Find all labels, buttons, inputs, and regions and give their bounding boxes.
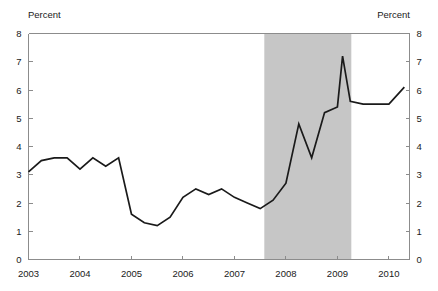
y-label-left-3: 3 bbox=[16, 169, 21, 180]
x-label-2010: 2010 bbox=[378, 268, 399, 279]
y-label-right-0: 0 bbox=[417, 254, 422, 265]
y-label-left-8: 8 bbox=[16, 28, 21, 39]
y-label-left-1: 1 bbox=[16, 226, 21, 237]
left-axis-unit-label: Percent bbox=[28, 9, 61, 20]
x-label-2006: 2006 bbox=[172, 268, 193, 279]
x-label-2003: 2003 bbox=[18, 268, 39, 279]
x-label-2007: 2007 bbox=[224, 268, 245, 279]
y-label-left-6: 6 bbox=[16, 85, 21, 96]
y-label-left-4: 4 bbox=[16, 141, 21, 152]
y-label-right-2: 2 bbox=[417, 198, 422, 209]
y-label-right-7: 7 bbox=[417, 56, 422, 67]
y-label-right-4: 4 bbox=[417, 141, 422, 152]
y-label-left-2: 2 bbox=[16, 198, 21, 209]
right-axis-unit-label: Percent bbox=[377, 9, 410, 20]
y-label-left-0: 0 bbox=[16, 254, 21, 265]
x-label-2008: 2008 bbox=[275, 268, 296, 279]
y-axis-right-labels: 012345678 bbox=[417, 28, 422, 265]
y-label-left-7: 7 bbox=[16, 56, 21, 67]
chart-container: 012345678 012345678 20032004200520062007… bbox=[0, 0, 438, 291]
y-label-right-8: 8 bbox=[417, 28, 422, 39]
x-label-2004: 2004 bbox=[69, 268, 90, 279]
y-label-left-5: 5 bbox=[16, 113, 21, 124]
y-label-right-1: 1 bbox=[417, 226, 422, 237]
y-axis-left-labels: 012345678 bbox=[16, 28, 21, 265]
x-label-2009: 2009 bbox=[327, 268, 348, 279]
y-label-right-5: 5 bbox=[417, 113, 422, 124]
line-chart: 012345678 012345678 20032004200520062007… bbox=[0, 0, 438, 291]
y-label-right-3: 3 bbox=[417, 169, 422, 180]
chart-background bbox=[0, 0, 438, 291]
y-label-right-6: 6 bbox=[417, 85, 422, 96]
x-label-2005: 2005 bbox=[121, 268, 142, 279]
